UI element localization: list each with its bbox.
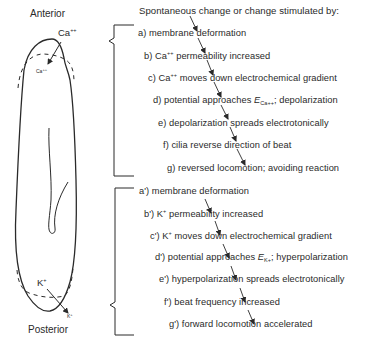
ca-inside-label: Ca++ — [36, 68, 47, 74]
ca-outside-label: Ca++ — [58, 28, 77, 38]
posterior-step-f: f') beat frequency increased — [164, 298, 280, 307]
anterior-step-a: a) membrane deformation — [138, 29, 246, 38]
posterior-step-b: b') K+ permeability increased — [144, 209, 263, 219]
anterior-step-e: e) depolarization spreads electrotonical… — [158, 119, 329, 128]
ca-influx-arrow — [48, 42, 61, 64]
anterior-bracket — [109, 25, 134, 176]
k-outside-label: K+ — [67, 313, 73, 319]
anterior-label: Anterior — [30, 9, 65, 19]
posterior-step-e: e') hyperpolarization spreads electroton… — [159, 275, 344, 284]
anterior-step-c: c) Ca++ moves down electrochemical gradi… — [148, 73, 337, 83]
posterior-step-g: g') forward locomotion accelerated — [169, 320, 313, 329]
oral-groove — [49, 128, 68, 233]
k-inside-label: K+ — [37, 278, 47, 288]
anterior-step-d: d) potential approaches ECa++; depolariz… — [153, 96, 338, 107]
cascade-heading: Spontaneous change or change stimulated … — [139, 6, 339, 16]
anterior-step-g: g) reversed locomotion; avoiding reactio… — [167, 164, 339, 173]
posterior-step-c: c') K+ moves down electrochemical gradie… — [150, 231, 332, 241]
k-efflux-arrow — [47, 289, 68, 313]
posterior-step-d: d') potential approaches EK+; hyperpolar… — [155, 253, 348, 264]
posterior-bracket — [110, 188, 134, 335]
cell-outline — [16, 39, 77, 311]
anterior-step-b: b) Ca++ permeability increased — [144, 51, 270, 61]
posterior-label: Posterior — [28, 325, 68, 335]
anterior-step-f: f) cilia reverse direction of beat — [163, 141, 291, 150]
posterior-step-a: a') membrane deformation — [139, 187, 249, 196]
